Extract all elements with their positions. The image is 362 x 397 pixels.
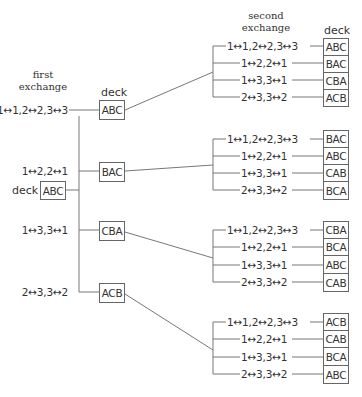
result-deck: BAC xyxy=(323,130,349,148)
result-deck: CBA xyxy=(323,221,349,239)
heading-line: exchange xyxy=(236,22,296,34)
result-deck: CAB xyxy=(323,273,349,292)
deck-label-first: deck xyxy=(101,86,127,99)
exchange-tree-diagram: first exchange second exchange deck deck… xyxy=(0,0,362,397)
result-deck: BCA xyxy=(323,181,349,200)
result-deck: ABC xyxy=(323,38,349,56)
start-deck-label: deck xyxy=(12,184,38,197)
result-deck: CAB xyxy=(323,330,349,348)
second-exchange-label: 1↔1,2↔2,3↔3 xyxy=(227,224,298,236)
second-exchange-label: 1↔3,3↔1 xyxy=(241,167,287,179)
first-exchange-deck: ACB xyxy=(99,283,125,303)
result-deck: ACB xyxy=(323,89,349,107)
result-deck: ACB xyxy=(323,313,349,331)
second-exchange-label: 2↔3,3↔2 xyxy=(241,184,287,196)
second-exchange-label: 1↔1,2↔2,3↔3 xyxy=(227,40,298,52)
first-exchange-label: 1↔3,3↔1 xyxy=(22,224,68,236)
second-exchange-label: 2↔3,3↔2 xyxy=(241,368,287,380)
first-exchange-label: 1↔1,2↔2,3↔3 xyxy=(0,104,68,116)
result-deck: CBA xyxy=(323,72,349,90)
second-exchange-label: 1↔3,3↔1 xyxy=(241,74,287,86)
result-deck: BCA xyxy=(323,347,349,366)
first-exchange-deck: BAC xyxy=(99,162,125,182)
first-exchange-label: 1↔2,2↔1 xyxy=(22,165,68,177)
result-deck: ABC xyxy=(323,255,349,274)
second-exchange-label: 1↔2,2↔1 xyxy=(241,57,287,69)
first-exchange-deck: ABC xyxy=(99,100,125,120)
heading-line: second xyxy=(236,10,296,22)
heading-line: first xyxy=(14,69,72,81)
second-exchange-label: 1↔1,2↔2,3↔3 xyxy=(227,133,298,145)
first-exchange-deck: CBA xyxy=(99,221,125,241)
result-deck: BCA xyxy=(323,238,349,256)
second-exchange-label: 1↔2,2↔1 xyxy=(241,333,287,345)
second-exchange-label: 1↔3,3↔1 xyxy=(241,351,287,363)
result-deck: CAB xyxy=(323,164,349,182)
second-exchange-label: 1↔2,2↔1 xyxy=(241,241,287,253)
result-deck: BAC xyxy=(323,55,349,73)
result-deck: ABC xyxy=(323,365,349,384)
second-exchange-label: 1↔2,2↔1 xyxy=(241,150,287,162)
second-exchange-label: 2↔3,3↔2 xyxy=(241,91,287,103)
second-exchange-label: 1↔3,3↔1 xyxy=(241,259,287,271)
first-exchange-heading: first exchange xyxy=(14,69,72,93)
result-deck: ABC xyxy=(323,147,349,165)
second-exchange-heading: second exchange xyxy=(236,10,296,34)
second-exchange-label: 1↔1,2↔2,3↔3 xyxy=(227,316,298,328)
deck-label-second: deck xyxy=(324,24,350,37)
heading-line: exchange xyxy=(14,81,72,93)
second-exchange-label: 2↔3,3↔2 xyxy=(241,276,287,288)
first-exchange-label: 2↔3,3↔2 xyxy=(22,286,68,298)
start-deck-box: ABC xyxy=(40,181,66,200)
